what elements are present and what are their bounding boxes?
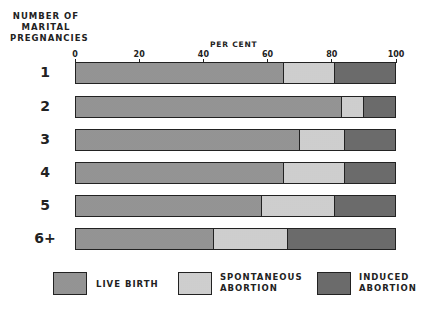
y-title-line: MARITAL xyxy=(10,22,82,33)
legend-text-line: ABORTION xyxy=(359,283,417,294)
legend-label-spontaneous-abortion: SPONTANEOUS ABORTION xyxy=(220,272,303,294)
x-tick-label: 60 xyxy=(262,50,273,59)
row-label: 2 xyxy=(20,98,70,114)
legend-label-induced-abortion: INDUCED ABORTION xyxy=(359,272,417,294)
y-axis-title: NUMBER OF MARITAL PREGNANCIES xyxy=(10,11,82,44)
bar-segment-induced xyxy=(334,196,395,216)
row-label: 3 xyxy=(20,131,70,147)
stacked-bar xyxy=(75,162,396,184)
row-label: 4 xyxy=(20,164,70,180)
bar-segment-live xyxy=(76,196,261,216)
bar-segment-spont xyxy=(341,97,363,117)
x-tick-label: 100 xyxy=(388,50,405,59)
bar-segment-induced xyxy=(344,163,395,183)
stacked-bar xyxy=(75,96,396,118)
bar-segment-induced xyxy=(344,130,395,150)
legend: LIVE BIRTH SPONTANEOUS ABORTION INDUCED … xyxy=(0,270,431,302)
bar-segment-spont xyxy=(261,196,334,216)
stacked-bar xyxy=(75,228,396,250)
legend-text-line: ABORTION xyxy=(220,283,303,294)
bar-segment-spont xyxy=(213,229,286,249)
x-tick-label: 20 xyxy=(134,50,145,59)
legend-label-live-birth: LIVE BIRTH xyxy=(96,279,159,290)
y-title-line: PREGNANCIES xyxy=(10,33,82,44)
stacked-bar xyxy=(75,129,396,151)
legend-text-line: SPONTANEOUS xyxy=(220,272,303,283)
bar-segment-live xyxy=(76,163,283,183)
x-tick-label: 0 xyxy=(72,50,78,59)
stacked-bar xyxy=(75,195,396,217)
legend-swatch-spontaneous-abortion xyxy=(178,272,212,295)
x-tick-label: 80 xyxy=(326,50,337,59)
row-label: 5 xyxy=(20,197,70,213)
bar-segment-spont xyxy=(283,163,344,183)
bar-segment-spont xyxy=(299,130,344,150)
bar-segment-induced xyxy=(287,229,395,249)
legend-swatch-induced-abortion xyxy=(317,272,351,295)
bar-segment-live xyxy=(76,130,299,150)
legend-text-line: INDUCED xyxy=(359,272,417,283)
y-title-line: NUMBER OF xyxy=(10,11,82,22)
x-axis-title: PER CENT xyxy=(210,40,257,49)
row-label: 6+ xyxy=(20,230,70,246)
bar-segment-induced xyxy=(363,97,395,117)
bar-segment-live xyxy=(76,63,283,83)
bar-segment-induced xyxy=(334,63,395,83)
bar-segment-live xyxy=(76,97,341,117)
row-label: 1 xyxy=(20,64,70,80)
bar-segment-spont xyxy=(283,63,334,83)
legend-swatch-live-birth xyxy=(53,272,87,295)
stacked-bar xyxy=(75,62,396,84)
bar-segment-live xyxy=(76,229,213,249)
x-tick-label: 40 xyxy=(198,50,209,59)
